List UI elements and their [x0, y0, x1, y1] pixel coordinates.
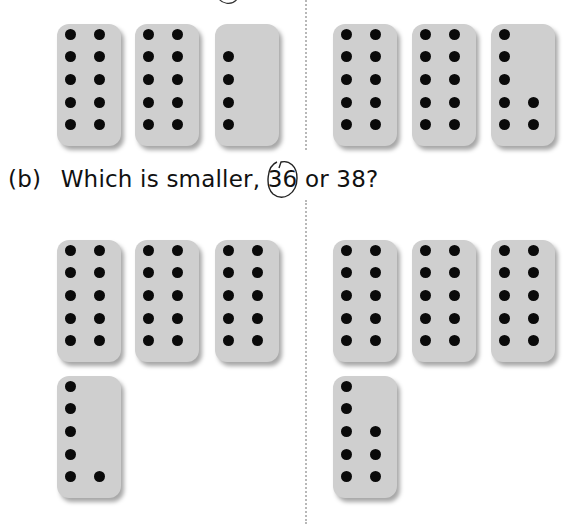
dot-card-10 [491, 240, 555, 362]
dot-icon [341, 471, 352, 482]
dot-icon [65, 381, 76, 392]
dot-icon [223, 335, 234, 346]
dot-icon [341, 97, 352, 108]
dot-icon [94, 97, 105, 108]
dot-icon [449, 29, 460, 40]
dot-icon [499, 335, 510, 346]
dot-icon [370, 426, 381, 437]
dot-icon [420, 245, 431, 256]
dot-icon [94, 471, 105, 482]
dot-icon [172, 245, 183, 256]
dot-icon [341, 335, 352, 346]
dot-icon [143, 29, 154, 40]
dot-icon [143, 335, 154, 346]
dot-icon [143, 313, 154, 324]
dot-icon [420, 313, 431, 324]
dot-icon [341, 74, 352, 85]
dot-icon [223, 74, 234, 85]
dot-icon [65, 403, 76, 414]
dot-icon [420, 29, 431, 40]
dot-icon [341, 119, 352, 130]
dot-icon [420, 97, 431, 108]
dot-icon [341, 426, 352, 437]
dot-icon [172, 335, 183, 346]
dot-icon [370, 335, 381, 346]
dot-icon [499, 97, 510, 108]
dot-icon [341, 267, 352, 278]
dot-icon [143, 267, 154, 278]
question-or: or [305, 166, 329, 192]
dot-icon [341, 381, 352, 392]
dot-icon [252, 313, 263, 324]
question-b: (b) Which is smaller, 36 or 38? [8, 166, 378, 192]
dot-icon [94, 51, 105, 62]
dot-icon [94, 74, 105, 85]
dot-card-10 [135, 240, 199, 362]
dot-icon [143, 97, 154, 108]
dot-icon [370, 313, 381, 324]
dot-icon [143, 290, 154, 301]
dot-card-8 [333, 376, 397, 498]
dot-icon [94, 267, 105, 278]
dot-icon [143, 51, 154, 62]
dot-card-10 [412, 24, 476, 146]
dot-icon [528, 290, 539, 301]
dot-card-10 [57, 240, 121, 362]
dot-icon [172, 290, 183, 301]
dot-icon [370, 97, 381, 108]
dot-icon [65, 245, 76, 256]
dot-icon [223, 267, 234, 278]
number-a: 36 [268, 166, 298, 192]
dot-icon [449, 51, 460, 62]
dot-icon [252, 290, 263, 301]
question-label: (b) [8, 166, 41, 192]
dot-icon [420, 335, 431, 346]
dot-icon [223, 313, 234, 324]
dot-icon [172, 74, 183, 85]
dot-icon [94, 119, 105, 130]
dot-icon [172, 97, 183, 108]
dot-icon [65, 29, 76, 40]
dot-icon [65, 97, 76, 108]
dot-card-10 [135, 24, 199, 146]
dot-icon [449, 313, 460, 324]
dot-icon [449, 245, 460, 256]
dot-icon [449, 335, 460, 346]
dot-card-10 [215, 240, 279, 362]
dot-icon [499, 245, 510, 256]
dot-icon [223, 245, 234, 256]
dot-icon [143, 119, 154, 130]
dot-icon [94, 245, 105, 256]
dot-icon [420, 290, 431, 301]
dot-icon [94, 335, 105, 346]
dot-icon [528, 97, 539, 108]
dot-icon [341, 290, 352, 301]
dot-icon [252, 245, 263, 256]
dot-icon [143, 74, 154, 85]
dot-icon [449, 97, 460, 108]
dot-icon [223, 119, 234, 130]
dot-icon [252, 335, 263, 346]
dot-icon [370, 74, 381, 85]
dot-icon [223, 290, 234, 301]
dot-icon [420, 267, 431, 278]
question-text: Which is smaller, [61, 166, 261, 192]
dot-icon [172, 29, 183, 40]
dot-icon [528, 335, 539, 346]
dot-icon [341, 403, 352, 414]
dot-card-10 [57, 24, 121, 146]
dot-icon [65, 449, 76, 460]
dot-icon [449, 119, 460, 130]
dot-icon [65, 426, 76, 437]
dot-icon [341, 313, 352, 324]
dot-icon [65, 290, 76, 301]
dot-icon [499, 267, 510, 278]
dot-icon [499, 29, 510, 40]
dot-icon [94, 290, 105, 301]
dot-icon [94, 313, 105, 324]
dot-icon [499, 313, 510, 324]
dot-icon [65, 74, 76, 85]
dot-icon [370, 471, 381, 482]
number-b: 38? [336, 166, 378, 192]
dot-icon [370, 29, 381, 40]
